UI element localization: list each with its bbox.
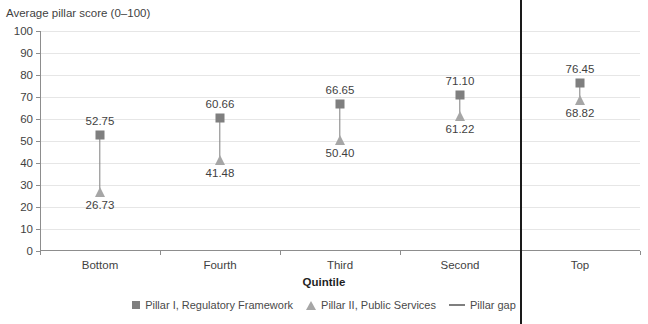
pillar-one-value-label: 76.45 [566, 63, 595, 75]
pillar-one-marker [336, 100, 345, 109]
y-axis-tick-mark [36, 229, 40, 230]
legend-item-label: Pillar I, Regulatory Framework [145, 299, 293, 311]
legend-triangle-icon [306, 301, 316, 310]
gridline [41, 185, 640, 186]
pillar-one-marker [96, 130, 105, 139]
pillar-one-marker [456, 90, 465, 99]
pillar-two-value-label: 50.40 [326, 147, 355, 159]
pillar-one-value-label: 71.10 [446, 75, 475, 87]
x-axis-line [40, 250, 640, 251]
pillar-two-value-label: 68.82 [566, 107, 595, 119]
gridline [41, 163, 640, 164]
y-axis-tick-label: 10 [20, 223, 33, 235]
y-axis-tick-mark [36, 163, 40, 164]
pillar-one-value-label: 52.75 [86, 115, 115, 127]
y-axis-tick-mark [36, 53, 40, 54]
pillar-two-value-label: 61.22 [446, 123, 475, 135]
x-axis-tick-mark [280, 251, 281, 255]
chart-container: Average pillar score (0–100) 10090807060… [0, 0, 648, 324]
pillar-two-marker [575, 95, 585, 105]
legend-line-icon [449, 304, 465, 306]
x-axis-category-label: Second [440, 259, 479, 271]
legend-item[interactable]: Pillar I, Regulatory Framework [132, 299, 293, 311]
x-axis-tick-mark [160, 251, 161, 255]
pillar-one-value-label: 66.65 [326, 84, 355, 96]
pillar-one-marker [216, 113, 225, 122]
chart-legend: Pillar I, Regulatory FrameworkPillar II,… [0, 299, 648, 311]
y-axis-tick-label: 0 [27, 245, 33, 257]
legend-item-label: Pillar II, Public Services [321, 299, 436, 311]
x-axis-tick-mark [40, 251, 41, 255]
y-axis-tick-label: 30 [20, 179, 33, 191]
x-axis-title: Quintile [0, 276, 648, 288]
y-axis-tick-label: 90 [20, 47, 33, 59]
pillar-two-marker [95, 187, 105, 197]
y-axis-tick-label: 100 [14, 25, 33, 37]
pillar-one-marker [576, 78, 585, 87]
y-axis-tick-label: 70 [20, 91, 33, 103]
legend-item[interactable]: Pillar II, Public Services [306, 299, 436, 311]
y-axis-tick-mark [36, 141, 40, 142]
gridline [41, 229, 640, 230]
y-axis-tick-mark [36, 75, 40, 76]
y-axis-tick-label: 50 [20, 135, 33, 147]
gridline [41, 53, 640, 54]
pillar-two-value-label: 26.73 [86, 199, 115, 211]
x-axis-tick-mark [400, 251, 401, 255]
y-axis-tick-label: 60 [20, 113, 33, 125]
y-axis-tick-mark [36, 31, 40, 32]
pillar-two-value-label: 41.48 [206, 167, 235, 179]
y-axis-tick-label: 40 [20, 157, 33, 169]
pillar-two-marker [455, 111, 465, 121]
plot-area: 1009080706050403020100 52.7526.7360.6641… [40, 31, 640, 251]
pillar-gap-line [99, 135, 100, 192]
y-axis-title: Average pillar score (0–100) [6, 7, 150, 19]
y-axis-tick-label: 80 [20, 69, 33, 81]
y-axis-tick-mark [36, 185, 40, 186]
x-axis-category-label: Top [571, 259, 590, 271]
y-axis-tick-mark [36, 207, 40, 208]
x-axis-category-label: Bottom [82, 259, 118, 271]
y-axis-tick-label: 20 [20, 201, 33, 213]
x-axis-tick-mark [640, 251, 641, 255]
legend-item[interactable]: Pillar gap [449, 299, 516, 311]
gridline [41, 75, 640, 76]
pillar-gap-line [219, 118, 220, 160]
y-axis-tick-mark [36, 119, 40, 120]
gridline [41, 97, 640, 98]
x-axis-category-label: Fourth [203, 259, 236, 271]
pillar-two-marker [335, 135, 345, 145]
gridline [41, 31, 640, 32]
pillar-two-marker [215, 155, 225, 165]
legend-item-label: Pillar gap [470, 299, 516, 311]
legend-square-icon [132, 301, 140, 309]
y-axis-tick-mark [36, 97, 40, 98]
gridline [41, 207, 640, 208]
x-axis-category-label: Third [327, 259, 353, 271]
pillar-one-value-label: 60.66 [206, 98, 235, 110]
